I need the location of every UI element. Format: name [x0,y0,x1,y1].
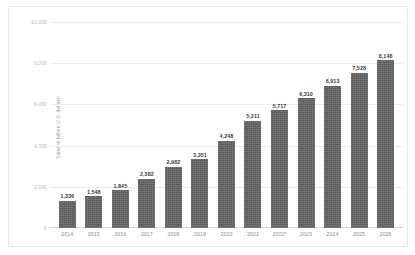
y-tick-label-8000: 8,000 [7,60,47,66]
bar-rect[interactable] [298,98,315,228]
bar-chart-figure: Sales in billion U.S. dollars 10,000 8,0… [0,0,415,255]
bar-rect[interactable] [59,201,76,229]
bar-rect[interactable] [138,179,155,228]
bar-item[interactable]: 1,548 [81,22,108,228]
bar-item[interactable]: 6,913 [319,22,346,228]
x-tick-label: 2022* [266,231,293,237]
y-tick-label-10000: 10,000 [7,19,47,25]
bar-rect[interactable] [271,110,288,228]
x-tick-label: 2024 [319,231,346,237]
bar-value-label: 2,982 [167,159,181,165]
x-tick-label: 2023 [293,231,320,237]
bar-rect[interactable] [324,86,341,228]
x-tick-label: 2026 [372,231,399,237]
bar-item[interactable]: 2,382 [134,22,161,228]
bar-item[interactable]: 8,148 [372,22,399,228]
bar-series-group: 1,336 1,548 1,845 2,382 2,982 3,351 [50,22,403,228]
bar-rect[interactable] [218,141,235,229]
bar-value-label: 1,336 [60,193,74,199]
bar-value-label: 1,548 [87,189,101,195]
bar-value-label: 6,310 [299,91,313,97]
bar-rect[interactable] [244,121,261,228]
bar-rect[interactable] [351,73,368,228]
x-axis-tick-labels: 2014 2015 2016 2017 2018 2019 2020 2021 … [50,231,403,237]
x-tick-label: 2025 [346,231,373,237]
bar-item[interactable]: 1,336 [54,22,81,228]
bar-rect[interactable] [165,167,182,228]
y-tick-label-4000: 4,000 [7,143,47,149]
bar-value-label: 8,148 [379,53,393,59]
bar-value-label: 1,845 [113,183,127,189]
bar-rect[interactable] [191,159,208,228]
bar-value-label: 7,528 [352,65,366,71]
bar-rect[interactable] [112,190,129,228]
bar-item[interactable]: 1,845 [107,22,134,228]
bar-value-label: 2,382 [140,171,154,177]
x-tick-label: 2021 [240,231,267,237]
x-tick-label: 2015 [81,231,108,237]
y-tick-label-2000: 2,000 [7,184,47,190]
bar-item[interactable]: 2,982 [160,22,187,228]
bar-item[interactable]: 7,528 [346,22,373,228]
bar-value-label: 6,913 [326,78,340,84]
bar-item[interactable]: 5,717 [266,22,293,228]
x-tick-label: 2014 [54,231,81,237]
bar-value-label: 3,351 [193,152,207,158]
y-tick-label-6000: 6,000 [7,101,47,107]
plot-area: 1,336 1,548 1,845 2,382 2,982 3,351 [50,22,403,228]
y-tick-label-0: 0 [7,225,47,231]
bar-item[interactable]: 3,351 [187,22,214,228]
bar-rect[interactable] [377,60,394,228]
bar-value-label: 5,717 [273,103,287,109]
bar-item[interactable]: 4,248 [213,22,240,228]
bar-value-label: 4,248 [220,133,234,139]
x-tick-label: 2017 [134,231,161,237]
x-tick-label: 2019 [187,231,214,237]
x-tick-label: 2020 [213,231,240,237]
bar-value-label: 5,211 [246,113,259,119]
bar-item[interactable]: 5,211 [240,22,267,228]
bar-rect[interactable] [85,196,102,228]
x-tick-label: 2016 [107,231,134,237]
x-tick-label: 2018 [160,231,187,237]
bar-item[interactable]: 6,310 [293,22,320,228]
